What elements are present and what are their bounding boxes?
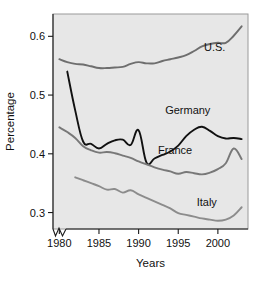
series-label-u-s: U.S. <box>204 41 225 53</box>
x-tick-label: 1985 <box>87 237 111 249</box>
x-axis-title: Years <box>136 257 165 269</box>
line-chart: 0.30.40.50.619801985199019952000YearsPer… <box>0 0 267 285</box>
y-tick-label: 0.4 <box>30 148 45 160</box>
x-tick-label: 1995 <box>166 237 190 249</box>
y-tick-label: 0.3 <box>30 207 45 219</box>
series-label-germany: Germany <box>165 104 211 116</box>
x-tick-label: 1990 <box>126 237 150 249</box>
x-tick-label: 2000 <box>206 237 230 249</box>
x-tick-label: 1980 <box>47 237 71 249</box>
series-label-italy: Italy <box>197 196 218 208</box>
y-tick-label: 0.6 <box>30 30 45 42</box>
series-label-france: France <box>158 144 192 156</box>
y-axis-title: Percentage <box>4 92 16 151</box>
chart-figure: 0.30.40.50.619801985199019952000YearsPer… <box>0 0 267 285</box>
y-tick-label: 0.5 <box>30 89 45 101</box>
